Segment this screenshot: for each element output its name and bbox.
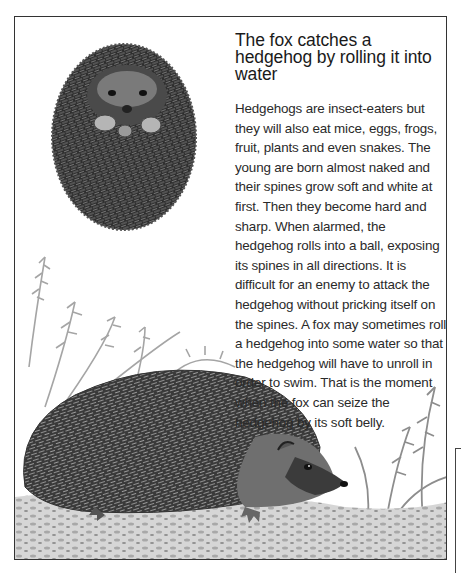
adjacent-page-edge: [455, 448, 461, 573]
page-frame: The fox catches a hedgehog by rolling it…: [14, 16, 447, 560]
article-body: Hedgehogs are insect-eaters but they wil…: [235, 99, 447, 432]
article-text: The fox catches a hedgehog by rolling it…: [235, 32, 447, 432]
article-heading: The fox catches a hedgehog by rolling it…: [235, 32, 447, 83]
rolled-hedgehog: [52, 44, 196, 230]
